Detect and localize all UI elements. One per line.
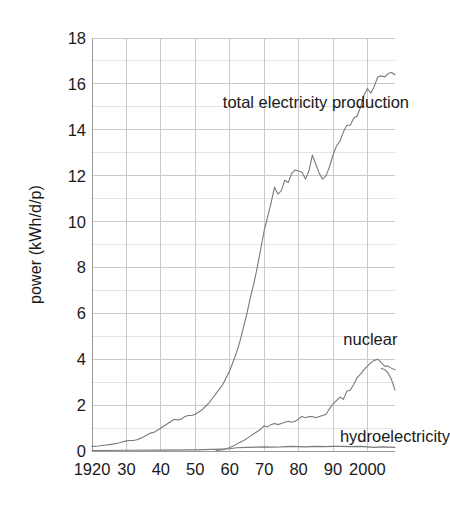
annotation-hydroelectricity: hydroelectricity [340,428,450,445]
annotation-nuclear: nuclear [343,331,397,348]
annotation-total-electricity-production: total electricity production [223,94,409,111]
